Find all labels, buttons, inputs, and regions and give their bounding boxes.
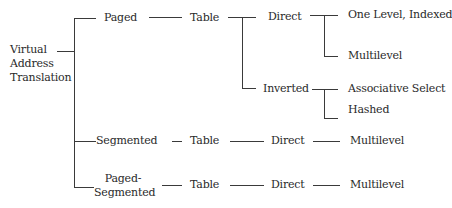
inverted-child-associative-select: Associative Select	[348, 82, 445, 95]
inverted-children-vertical	[324, 89, 325, 119]
paged-segmented-table-to-direct-line	[230, 185, 264, 186]
segmented-leaf-multilevel: Multilevel	[350, 134, 404, 147]
direct-to-multilevel-line	[324, 56, 338, 57]
main-trunk	[74, 18, 75, 188]
root-connector	[57, 51, 74, 52]
paged-inverted-label: Inverted	[263, 82, 309, 95]
inverted-to-children-line	[312, 89, 338, 90]
inverted-to-hashed-line	[324, 118, 338, 119]
paged-segmented-direct-to-leaf-line	[313, 185, 340, 186]
paged-segmented-connector	[74, 187, 94, 188]
paged-direct-label: Direct	[268, 10, 302, 23]
direct-child-one-level-indexed: One Level, Indexed	[348, 8, 452, 21]
segmented-table-to-direct-line	[230, 141, 264, 142]
root-label-line-1: Virtual	[10, 43, 47, 56]
paged-segmented-direct-label: Direct	[271, 178, 305, 191]
paged-connector	[74, 18, 96, 19]
segmented-connector	[74, 141, 96, 142]
direct-child-multilevel: Multilevel	[348, 49, 402, 62]
segmented-table-label: Table	[190, 134, 219, 147]
paged-segmented-label-line-1: Paged-	[94, 172, 152, 185]
segmented-direct-to-leaf-line	[313, 141, 340, 142]
paged-segmented-to-table-line	[162, 185, 182, 186]
paged-table-label: Table	[190, 11, 219, 24]
inverted-child-hashed: Hashed	[348, 103, 389, 116]
segmented-direct-label: Direct	[271, 134, 305, 147]
direct-children-vertical	[324, 15, 325, 57]
table-to-inverted-line	[242, 88, 256, 89]
table-split-vertical	[242, 17, 243, 89]
segmented-label: Segmented	[96, 134, 157, 147]
paged-label: Paged	[104, 11, 137, 24]
paged-segmented-label-line-2: Segmented	[94, 186, 152, 199]
segmented-to-table-line	[172, 141, 182, 142]
paged-to-table-line	[149, 17, 182, 18]
root-label-line-2: Address	[10, 57, 54, 70]
root-label-line-3: Translation	[10, 71, 71, 84]
paged-segmented-table-label: Table	[190, 178, 219, 191]
paged-segmented-leaf-multilevel: Multilevel	[350, 178, 404, 191]
